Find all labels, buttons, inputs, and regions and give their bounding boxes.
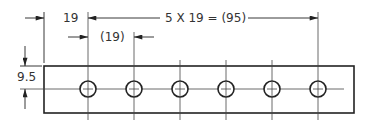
hole-3: [172, 60, 188, 120]
dim-reference-spacing-label: (19): [100, 30, 125, 44]
hole-5: [264, 60, 280, 120]
hole-4: [218, 60, 234, 120]
dim-hole-spacing-chain-label: 5 X 19 = (95): [165, 11, 246, 25]
dim-edge-to-centerline-label: 9.5: [17, 70, 36, 84]
plate-outline: [44, 66, 354, 113]
dim-first-hole-offset-label: 19: [63, 11, 78, 25]
hole-2: [126, 32, 142, 120]
dimension-drawing: 19 5 X 19 = (95) (19) 9.5: [0, 0, 369, 128]
